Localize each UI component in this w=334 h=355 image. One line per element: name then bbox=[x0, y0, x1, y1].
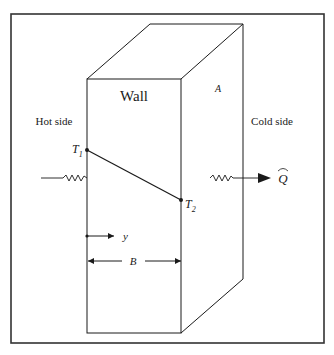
t2-point bbox=[179, 198, 183, 202]
t1-label: T1 bbox=[72, 142, 83, 159]
svg-text:Q: Q bbox=[278, 171, 288, 186]
area-label: A bbox=[214, 83, 222, 94]
wall-top-face bbox=[87, 24, 243, 79]
wall-label: Wall bbox=[120, 88, 148, 104]
y-label: y bbox=[122, 230, 128, 242]
heat-flow-label: Q bbox=[278, 169, 288, 187]
cold-side-label: Cold side bbox=[251, 115, 293, 127]
t1-point bbox=[85, 148, 89, 152]
wall-block bbox=[87, 24, 243, 333]
temperature-profile-line bbox=[87, 150, 181, 200]
thickness-label: B bbox=[130, 255, 137, 267]
heat-output-squiggle bbox=[210, 175, 262, 181]
t2-label: T2 bbox=[185, 197, 196, 214]
hot-side-label: Hot side bbox=[36, 115, 73, 127]
heat-input-squiggle bbox=[41, 175, 87, 181]
heat-flow-arrow-icon bbox=[258, 173, 271, 183]
wall-conduction-diagram: Wall A Hot side Cold side T1 T2 Q y B bbox=[0, 0, 334, 355]
wall-front-face bbox=[87, 79, 181, 333]
figure-frame bbox=[11, 14, 324, 343]
